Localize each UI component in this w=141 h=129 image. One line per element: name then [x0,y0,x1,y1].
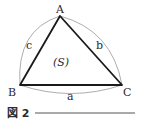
vertex-b-label: B [8,86,16,99]
triangle-diagram: A B C a b c (S) 図 2 [0,0,141,129]
area-label: (S) [53,56,69,69]
figure-caption: 図 2 [7,106,29,120]
side-b-label: b [96,39,103,52]
triangle-abc [20,16,122,85]
side-a-label: a [67,90,74,103]
vertex-a-label: A [55,3,65,16]
side-c-label: c [26,39,32,52]
vertex-c-label: C [123,86,131,99]
